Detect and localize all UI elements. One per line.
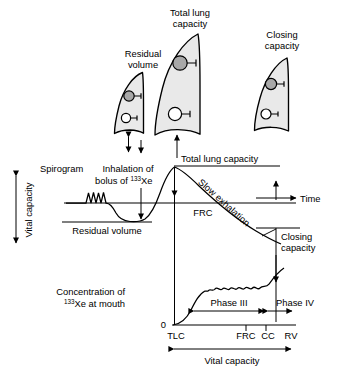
xtick-tlc: TLC bbox=[167, 330, 185, 341]
tlc-reference-label: Total lung capacity bbox=[181, 153, 258, 164]
lung-label-cc-line1: Closing bbox=[266, 29, 297, 40]
lung-label-residual-volume-line1: Residual bbox=[125, 48, 161, 59]
lung-label-tlc-line2: capacity bbox=[173, 18, 208, 29]
rv-label: Residual volume bbox=[72, 225, 141, 236]
xtick-cc: CC bbox=[261, 330, 275, 341]
frc-label: FRC bbox=[193, 207, 212, 218]
concentration-label-line2: 133Xe at mouth bbox=[64, 298, 125, 310]
xtick-rv: RV bbox=[285, 330, 299, 341]
cc-label-line2: capacity bbox=[281, 242, 316, 253]
vital-capacity-span-label: Vital capacity bbox=[204, 355, 259, 366]
spirogram-label: Spirogram bbox=[40, 163, 83, 174]
lung-closing-capacity: Closing capacity bbox=[255, 29, 300, 131]
slow-exhalation-label: Slow exhalation bbox=[196, 176, 252, 228]
closing-capacity-figure: Residual volume Total lung capacity Clos… bbox=[0, 0, 341, 372]
cc-leader-line bbox=[262, 229, 276, 236]
bolus-label-line2: bolus of 133Xe bbox=[95, 175, 152, 187]
phase3-label: Phase III bbox=[210, 297, 247, 308]
cc-label-line1: Closing bbox=[281, 231, 312, 242]
bolus-label-line1: Inhalation of bbox=[102, 163, 153, 174]
lung-total-lung-capacity: Total lung capacity bbox=[155, 7, 210, 135]
lung-label-residual-volume-line2: volume bbox=[128, 59, 158, 70]
concentration-label-line1: Concentration of bbox=[56, 286, 125, 297]
phase4-label: Phase IV bbox=[276, 297, 315, 308]
lung-shape-cc bbox=[255, 58, 289, 131]
lung-residual-volume: Residual volume bbox=[115, 48, 162, 134]
lung-label-tlc-line1: Total lung bbox=[170, 7, 210, 18]
vital-capacity-axis-label: Vital capacity bbox=[23, 182, 34, 237]
xtick-frc: FRC bbox=[236, 330, 255, 341]
lung-label-cc-line2: capacity bbox=[265, 40, 300, 51]
lung-shape-residual-volume bbox=[115, 73, 144, 134]
concentration-zero-label: 0 bbox=[161, 319, 166, 330]
time-label: Time bbox=[300, 193, 320, 204]
